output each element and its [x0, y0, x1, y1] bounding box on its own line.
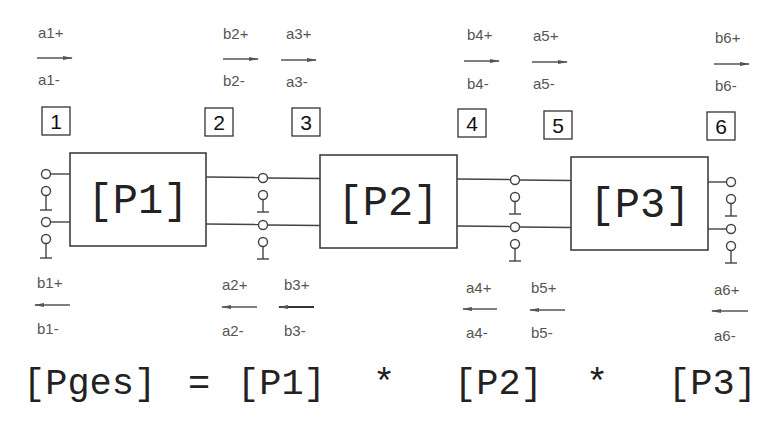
- port-number-3-label: 3: [300, 111, 312, 134]
- cascade-formula: [Pges] = [P1] * [P2] * [P3]: [23, 363, 757, 405]
- wave-label-b3-minus: b3-: [284, 322, 306, 339]
- port-number-1: 1: [42, 107, 70, 135]
- cascade-diagram: a1+ a1- b2+ b2- a3+ a3- b4+ b4- a5+ a5- …: [0, 0, 782, 426]
- wave-label-a5-minus: a5-: [533, 75, 555, 92]
- formula-term-p3: [P3]: [668, 363, 757, 405]
- port-3-top-labels: a3+ a3-: [281, 25, 316, 90]
- wave-label-a6-plus: a6+: [714, 281, 740, 298]
- terminals-port-2-3: [206, 174, 320, 260]
- formula-operator-2: *: [586, 363, 608, 405]
- port-number-5-label: 5: [552, 114, 564, 137]
- port-1-bottom-labels: b1+ b1-: [35, 274, 70, 337]
- port-number-2-label: 2: [213, 111, 225, 134]
- terminal-node-icon: [259, 221, 268, 230]
- block-p3: [P3]: [571, 157, 708, 250]
- port-4-top-labels: b4+ b4-: [464, 26, 499, 92]
- wave-label-b1-plus: b1+: [37, 274, 63, 291]
- wave-label-a1-minus: a1-: [38, 71, 60, 88]
- terminal-node-icon: [42, 218, 51, 227]
- wave-label-b1-minus: b1-: [37, 320, 59, 337]
- wave-label-a1-plus: a1+: [38, 24, 64, 41]
- wave-label-b3-plus: b3+: [284, 276, 310, 293]
- port-5-top-labels: a5+ a5-: [532, 27, 567, 92]
- wave-label-a6-minus: a6-: [714, 327, 736, 344]
- terminal-node-icon: [259, 191, 268, 200]
- terminal-node-icon: [511, 176, 520, 185]
- port-6-bottom-labels: a6+ a6-: [712, 281, 748, 344]
- block-p2: [P2]: [320, 155, 457, 248]
- port-4-bottom-labels: a4+ a4-: [463, 279, 497, 341]
- port-number-3: 3: [292, 108, 320, 136]
- port-2-bottom-labels: a2+ a2-: [222, 276, 257, 339]
- formula-equals: =: [188, 363, 210, 405]
- terminal-node-icon: [511, 223, 520, 232]
- port-number-2: 2: [205, 108, 233, 136]
- terminal-node-icon: [727, 178, 736, 187]
- terminal-node-icon: [259, 238, 268, 247]
- terminal-node-icon: [259, 174, 268, 183]
- wave-label-b2-plus: b2+: [223, 25, 249, 42]
- terminals-port-4-5: [457, 176, 571, 262]
- terminal-node-icon: [42, 187, 51, 196]
- wave-label-a5-plus: a5+: [533, 27, 559, 44]
- block-p1: [P1]: [70, 153, 206, 246]
- port-number-1-label: 1: [50, 110, 62, 133]
- terminal-node-icon: [42, 170, 51, 179]
- port-5-bottom-labels: b5+ b5-: [530, 279, 565, 341]
- port-number-6: 6: [707, 112, 735, 140]
- wave-label-b5-minus: b5-: [531, 324, 553, 341]
- formula-operator-1: *: [373, 363, 395, 405]
- terminal-node-icon: [42, 235, 51, 244]
- terminal-node-icon: [727, 225, 736, 234]
- port-1-top-labels: a1+ a1-: [37, 24, 72, 88]
- port-number-6-label: 6: [715, 115, 727, 138]
- wave-label-a4-plus: a4+: [466, 279, 492, 296]
- block-p2-label: [P2]: [338, 180, 439, 228]
- terminal-node-icon: [511, 193, 520, 202]
- port-number-5: 5: [544, 111, 572, 139]
- formula-term-p1: [P1]: [237, 363, 326, 405]
- wave-label-b4-plus: b4+: [467, 26, 493, 43]
- port-2-top-labels: b2+ b2-: [223, 25, 258, 89]
- port-6-top-labels: b6+ b6-: [714, 29, 749, 94]
- terminal-node-icon: [727, 242, 736, 251]
- formula-lhs: [Pges]: [23, 363, 156, 405]
- port-3-bottom-labels: b3+ b3-: [279, 276, 314, 339]
- wave-label-a3-plus: a3+: [286, 25, 312, 42]
- wave-label-a2-minus: a2-: [222, 322, 244, 339]
- wave-label-b5-plus: b5+: [531, 279, 557, 296]
- port-number-4: 4: [458, 109, 486, 137]
- terminal-node-icon: [727, 195, 736, 204]
- wave-label-a4-minus: a4-: [466, 324, 488, 341]
- block-p3-label: [P3]: [590, 182, 691, 230]
- terminals-port-1: [40, 170, 70, 259]
- wave-label-a2-plus: a2+: [222, 276, 248, 293]
- terminals-port-6: [708, 178, 737, 264]
- terminal-node-icon: [511, 240, 520, 249]
- port-number-4-label: 4: [466, 112, 478, 135]
- wave-label-a3-minus: a3-: [286, 73, 308, 90]
- wave-label-b6-plus: b6+: [715, 29, 741, 46]
- wave-label-b2-minus: b2-: [223, 72, 245, 89]
- wave-label-b6-minus: b6-: [715, 77, 737, 94]
- block-p1-label: [P1]: [88, 178, 189, 226]
- formula-term-p2: [P2]: [454, 363, 543, 405]
- wave-label-b4-minus: b4-: [467, 75, 489, 92]
